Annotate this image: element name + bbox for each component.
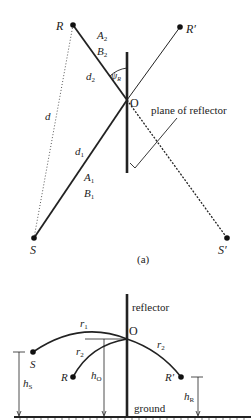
label-B2: B2	[97, 45, 108, 59]
label-S: S	[30, 243, 36, 257]
label-R-b: R	[60, 371, 68, 383]
label-Sprime: S′	[218, 243, 227, 257]
label-hR: hR	[184, 390, 195, 404]
label-r2-left: r2	[76, 345, 84, 359]
point-Sprime-dot	[224, 235, 230, 241]
label-reflector: reflector	[132, 301, 170, 313]
path-O-Rprime	[127, 27, 180, 100]
point-Rprime-b-dot	[178, 374, 184, 380]
label-A1: A1	[83, 171, 95, 185]
label-d2: d2	[86, 70, 96, 84]
label-d1: d1	[75, 145, 85, 159]
point-Rprime-dot	[177, 24, 183, 30]
label-A2: A2	[96, 29, 108, 43]
label-B1: B1	[84, 187, 95, 201]
label-psi-R: ψR	[111, 70, 121, 82]
label-Rprime-b: R′	[164, 371, 175, 383]
distance-d-line	[34, 25, 73, 238]
label-r2-right: r2	[157, 338, 165, 352]
figure-a: R R′ O S S′ A2 B2 d2 ψR d d1 A1 B1 plane…	[30, 19, 230, 266]
label-O: O	[130, 96, 139, 110]
figure-b: reflector O ground S R R′ r1 r2 r2 hS hO…	[13, 294, 251, 420]
figure-caption-a: (a)	[137, 253, 150, 266]
point-R-dot	[70, 22, 76, 28]
point-R-b-dot	[70, 374, 76, 380]
label-O-b: O	[129, 324, 138, 338]
plane-leader-line	[130, 118, 177, 168]
point-S-b-dot	[30, 349, 36, 355]
path-O-Sprime	[127, 100, 227, 238]
label-plane-of-reflector: plane of reflector	[151, 104, 227, 116]
point-S-dot	[31, 235, 37, 241]
label-Rprime: R′	[185, 22, 196, 36]
label-r1: r1	[80, 317, 88, 331]
reflection-geometry-diagram: R R′ O S S′ A2 B2 d2 ψR d d1 A1 B1 plane…	[0, 0, 251, 420]
label-R: R	[55, 19, 64, 33]
label-ground: ground	[134, 402, 166, 414]
label-hS: hS	[23, 377, 33, 391]
label-d: d	[45, 110, 51, 122]
label-hO: hO	[91, 369, 102, 383]
label-S-b: S	[30, 358, 36, 370]
